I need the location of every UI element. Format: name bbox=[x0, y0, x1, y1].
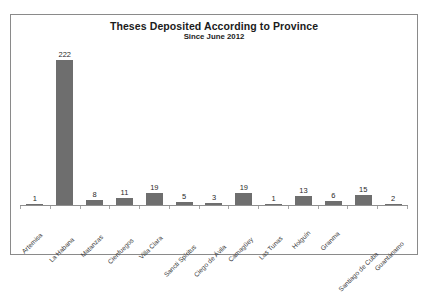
bar-slot: 5 bbox=[169, 48, 199, 205]
bar-value-label: 222 bbox=[59, 50, 72, 59]
bar-slot: 11 bbox=[110, 48, 140, 205]
x-axis-label-slot: Granma bbox=[318, 211, 348, 263]
x-axis-tick bbox=[288, 206, 318, 210]
x-axis-label-slot: Artemisa bbox=[20, 211, 50, 263]
x-axis-label-slot: Sancti Spíritus bbox=[169, 211, 199, 263]
bar-slot: 2 bbox=[378, 48, 408, 205]
bar bbox=[235, 193, 252, 205]
bar-slot: 222 bbox=[50, 48, 80, 205]
x-axis-tick bbox=[169, 206, 199, 210]
x-axis-tick bbox=[20, 206, 50, 210]
chart-title: Theses Deposited According to Province bbox=[11, 20, 417, 32]
bar-value-label: 11 bbox=[121, 188, 129, 197]
bar-slot: 13 bbox=[289, 48, 319, 205]
x-axis-ticks bbox=[20, 206, 408, 210]
bar bbox=[146, 193, 163, 205]
x-axis-tick bbox=[50, 206, 80, 210]
x-axis-label-slot: Matanzas bbox=[80, 211, 110, 263]
bar-value-label: 3 bbox=[212, 193, 216, 202]
bar-value-label: 1 bbox=[272, 194, 276, 203]
x-axis-label-text: Matanzas bbox=[79, 233, 104, 258]
bar-value-label: 2 bbox=[391, 194, 395, 203]
x-axis-labels: ArtemisaLa HabanaMatanzasCienfuegosVilla… bbox=[20, 211, 408, 263]
bar-slot: 19 bbox=[139, 48, 169, 205]
chart-subtitle: Since June 2012 bbox=[11, 32, 417, 42]
x-axis-label-slot: Santiago de Cuba bbox=[348, 211, 378, 263]
bar-value-label: 15 bbox=[359, 185, 367, 194]
x-axis-label-slot: Cienfuegos bbox=[110, 211, 140, 263]
x-axis-label-text: Artemisa bbox=[20, 231, 43, 254]
x-axis-label-text: Granma bbox=[319, 230, 341, 252]
bar-value-label: 8 bbox=[93, 190, 97, 199]
bar-value-label: 5 bbox=[182, 192, 186, 201]
x-axis-label-text: La Habana bbox=[47, 236, 75, 264]
x-axis-label-slot: Holguín bbox=[289, 211, 319, 263]
scan-artifact bbox=[120, 0, 310, 9]
x-axis-label-text: Camagüey bbox=[227, 236, 254, 263]
x-axis-label-slot: Camagüey bbox=[229, 211, 259, 263]
x-axis-label-slot: Ciego de Ávila bbox=[199, 211, 229, 263]
bar-slot: 1 bbox=[259, 48, 289, 205]
bars-row: 12228111953191136152 bbox=[20, 48, 408, 205]
x-axis-tick bbox=[80, 206, 110, 210]
x-axis-label-text: Guantánamo bbox=[373, 240, 405, 272]
bar-value-label: 1 bbox=[33, 194, 37, 203]
x-axis-label-slot: Guantánamo bbox=[378, 211, 408, 263]
bar-slot: 15 bbox=[348, 48, 378, 205]
x-axis-label-slot: La Habana bbox=[50, 211, 80, 263]
bar bbox=[355, 195, 372, 205]
bar-value-label: 19 bbox=[240, 183, 248, 192]
bar bbox=[116, 198, 133, 205]
bar bbox=[295, 196, 312, 205]
x-axis-tick bbox=[109, 206, 139, 210]
x-axis-tick bbox=[228, 206, 258, 210]
plot-area: 12228111953191136152 bbox=[20, 48, 408, 205]
bar-value-label: 13 bbox=[299, 186, 307, 195]
x-axis-tick bbox=[318, 206, 348, 210]
bar-slot: 3 bbox=[199, 48, 229, 205]
x-axis-label-text: Holguín bbox=[290, 229, 311, 250]
x-axis-tick-end bbox=[407, 206, 408, 209]
bar-slot: 6 bbox=[318, 48, 348, 205]
bar-value-label: 19 bbox=[150, 183, 158, 192]
x-axis-tick bbox=[258, 206, 288, 210]
x-axis-label-text: Las Tunas bbox=[257, 235, 283, 261]
x-axis-tick bbox=[347, 206, 377, 210]
chart-frame: Theses Deposited According to Province S… bbox=[10, 14, 418, 255]
x-axis-tick bbox=[199, 206, 229, 210]
x-axis-label-text: Villa Clara bbox=[138, 234, 164, 260]
bar-slot: 8 bbox=[80, 48, 110, 205]
x-axis-label-text: Cienfuegos bbox=[107, 237, 136, 266]
bar-slot: 19 bbox=[229, 48, 259, 205]
x-axis-tick bbox=[139, 206, 169, 210]
x-axis-label-slot: Las Tunas bbox=[259, 211, 289, 263]
bar bbox=[56, 60, 73, 205]
bar-slot: 1 bbox=[20, 48, 50, 205]
bar-value-label: 6 bbox=[331, 191, 335, 200]
x-axis-tick bbox=[377, 206, 407, 210]
x-axis-label-slot: Villa Clara bbox=[139, 211, 169, 263]
